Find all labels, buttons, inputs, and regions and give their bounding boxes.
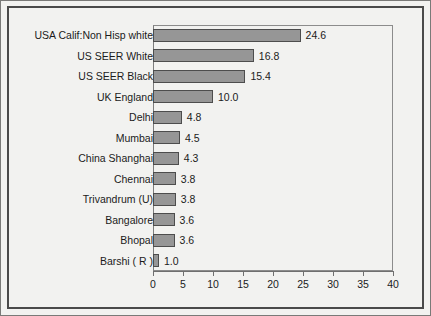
- bar-row: US SEER White16.8: [1, 45, 431, 67]
- bar-value-label: 10.0: [218, 91, 238, 103]
- bar-row: USA Calif:Non Hisp white24.6: [1, 24, 431, 46]
- bar: [153, 234, 175, 247]
- x-axis-tick-label: 25: [297, 278, 309, 290]
- x-axis-tick: [303, 271, 304, 276]
- bar-row: Bhopal3.6: [1, 229, 431, 251]
- x-axis-tick: [273, 271, 274, 276]
- bar-row: China Shanghai4.3: [1, 147, 431, 169]
- bar-value-label: 24.6: [306, 29, 326, 41]
- bar-rows-container: USA Calif:Non Hisp white24.6US SEER Whit…: [1, 25, 431, 271]
- x-axis-tick: [363, 271, 364, 276]
- bar-value-label: 3.8: [181, 173, 196, 185]
- x-axis-tick-label: 20: [267, 278, 279, 290]
- bar-category-label: China Shanghai: [0, 152, 153, 164]
- bar-with-value: 3.8: [153, 193, 195, 206]
- bar-category-label: UK England: [0, 91, 153, 103]
- bar-with-value: 3.6: [153, 234, 194, 247]
- bar: [153, 49, 254, 62]
- bar-value-label: 3.6: [180, 214, 195, 226]
- bar: [153, 193, 176, 206]
- bar-value-label: 4.3: [184, 152, 199, 164]
- bar-with-value: 3.8: [153, 172, 195, 185]
- x-axis-tick-label: 0: [150, 278, 156, 290]
- bar-row: Mumbai4.5: [1, 127, 431, 149]
- x-axis-tick: [243, 271, 244, 276]
- x-axis-tick: [213, 271, 214, 276]
- bar-with-value: 16.8: [153, 49, 279, 62]
- bar-category-label: Barshi ( R ): [0, 255, 153, 267]
- bar-with-value: 4.5: [153, 131, 200, 144]
- x-axis-tick: [333, 271, 334, 276]
- bar-category-label: US SEER White: [0, 50, 153, 62]
- x-axis-tick-label: 35: [357, 278, 369, 290]
- bar: [153, 111, 182, 124]
- bar-with-value: 24.6: [153, 29, 326, 42]
- bar-category-label: USA Calif:Non Hisp white: [0, 29, 153, 41]
- bar-category-label: Bangalore: [0, 214, 153, 226]
- x-axis-tick-label: 40: [387, 278, 399, 290]
- x-axis-tick-label: 10: [207, 278, 219, 290]
- x-axis-tick: [153, 271, 154, 276]
- bar: [153, 29, 301, 42]
- bar-value-label: 15.4: [250, 70, 270, 82]
- bar-row: Delhi4.8: [1, 106, 431, 128]
- bar-row: UK England10.0: [1, 86, 431, 108]
- bar-category-label: Bhopal: [0, 234, 153, 246]
- bar: [153, 70, 245, 83]
- bar-value-label: 16.8: [259, 50, 279, 62]
- x-axis-tick-label: 15: [237, 278, 249, 290]
- bar-with-value: 1.0: [153, 254, 179, 267]
- bar: [153, 172, 176, 185]
- bar-row: Trivandrum (U)3.8: [1, 188, 431, 210]
- bar: [153, 131, 180, 144]
- bar-value-label: 3.6: [180, 234, 195, 246]
- bar-row: Chennai3.8: [1, 168, 431, 190]
- chart-figure: USA Calif:Non Hisp white24.6US SEER Whit…: [0, 0, 431, 316]
- bar-value-label: 3.8: [181, 193, 196, 205]
- bar-category-label: US SEER Black: [0, 70, 153, 82]
- x-axis-tick: [393, 271, 394, 276]
- x-axis-tick: [183, 271, 184, 276]
- bar: [153, 90, 213, 103]
- bar-value-label: 1.0: [164, 255, 179, 267]
- x-axis-tick-label: 30: [327, 278, 339, 290]
- bar-category-label: Delhi: [0, 111, 153, 123]
- bar-with-value: 3.6: [153, 213, 194, 226]
- bar-category-label: Chennai: [0, 173, 153, 185]
- bar-with-value: 15.4: [153, 70, 271, 83]
- bar-with-value: 4.8: [153, 111, 201, 124]
- bar-row: Bangalore3.6: [1, 209, 431, 231]
- bar: [153, 254, 159, 267]
- bar: [153, 213, 175, 226]
- bar-row: US SEER Black15.4: [1, 65, 431, 87]
- bar: [153, 152, 179, 165]
- bar-with-value: 4.3: [153, 152, 198, 165]
- bar-category-label: Mumbai: [0, 132, 153, 144]
- x-axis-tick-label: 5: [180, 278, 186, 290]
- bar-value-label: 4.8: [187, 111, 202, 123]
- bar-category-label: Trivandrum (U): [0, 193, 153, 205]
- bar-value-label: 4.5: [185, 132, 200, 144]
- bar-with-value: 10.0: [153, 90, 238, 103]
- bar-row: Barshi ( R )1.0: [1, 250, 431, 272]
